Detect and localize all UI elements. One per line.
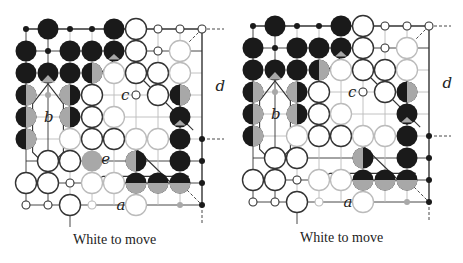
caption-right: White to move bbox=[300, 230, 383, 246]
label-c: c bbox=[348, 83, 357, 101]
go-board-left: bcdea bbox=[0, 0, 232, 230]
go-board-right: bcda bbox=[227, 0, 463, 227]
label-b: b bbox=[44, 108, 54, 126]
label-a: a bbox=[344, 193, 353, 211]
caption-left: White to move bbox=[73, 232, 156, 248]
label-c: c bbox=[121, 86, 130, 104]
label-e: e bbox=[101, 150, 110, 168]
label-d: d bbox=[443, 74, 453, 92]
label-b: b bbox=[271, 105, 281, 123]
label-a: a bbox=[117, 196, 126, 214]
go-diagram-left: bcdea White to move bbox=[0, 0, 232, 263]
go-diagram-right: bcda White to move bbox=[227, 0, 459, 263]
label-d: d bbox=[216, 77, 226, 95]
